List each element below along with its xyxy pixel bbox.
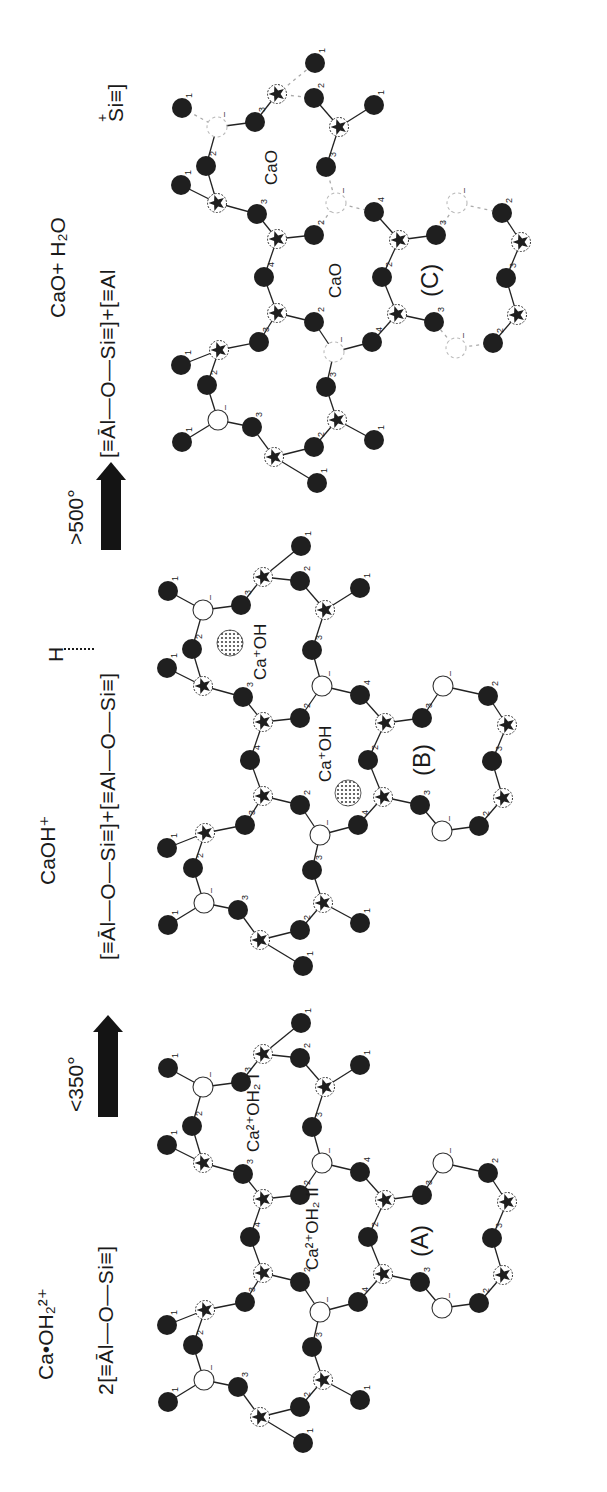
silicon-atom-star-icon	[251, 931, 270, 950]
oxygen-atom: 2	[290, 915, 312, 940]
oxygen-atom: 1	[157, 1130, 179, 1155]
svg-text:2: 2	[316, 307, 326, 312]
svg-text:4: 4	[362, 1157, 372, 1162]
oxygen-atom: 2	[304, 307, 326, 332]
silicon-atom-star-icon	[251, 1408, 270, 1427]
oxygen-atom: 3	[302, 635, 324, 660]
silicon-atom-star-icon	[376, 714, 395, 733]
aluminum-atom: –	[446, 333, 468, 358]
svg-text:3: 3	[314, 855, 324, 860]
temperature-label-b: >500°	[64, 489, 88, 545]
svg-text:2: 2	[370, 745, 380, 750]
silicon-atom-star-icon	[254, 787, 273, 806]
temperature-label-a: <350°	[64, 1056, 88, 1112]
svg-text:3: 3	[240, 1372, 250, 1377]
svg-text:–: –	[336, 337, 346, 342]
silicon-atom-star-icon	[316, 601, 335, 620]
svg-text:4: 4	[376, 197, 386, 202]
svg-text:3: 3	[243, 590, 253, 595]
aluminum-atom: –	[433, 1148, 455, 1173]
oxygen-atom: 1	[350, 1050, 372, 1075]
oxygen-atom: 1	[364, 425, 386, 450]
svg-text:3: 3	[257, 107, 267, 112]
oxygen-atom: 4	[350, 680, 372, 705]
oxygen-atom: 2	[304, 432, 326, 457]
oxygen-atom: 1	[291, 531, 313, 556]
aluminum-atom: –	[310, 1297, 332, 1322]
oxygen-atom: 3	[242, 412, 264, 437]
svg-text:4: 4	[252, 1222, 262, 1227]
oxygen-atom: 2	[290, 1392, 312, 1417]
silicon-atom-star-icon	[376, 1191, 395, 1210]
silicon-atom-star-icon	[210, 341, 229, 360]
svg-text:2: 2	[302, 915, 312, 920]
species-label-a: Ca•OH₂²⁺	[34, 1288, 58, 1380]
svg-text:2: 2	[195, 853, 205, 858]
aluminum-atom: –	[447, 188, 469, 213]
oxygen-atom: 2	[469, 811, 491, 836]
svg-text:1: 1	[303, 1008, 313, 1013]
oxygen-atom: 3	[228, 895, 250, 920]
svg-text:3: 3	[508, 263, 518, 268]
svg-text:–: –	[206, 888, 216, 893]
oxygen-atom: 3	[235, 810, 257, 835]
silicon-atom-star-icon	[254, 1190, 273, 1209]
inner-label-c2: CaO	[326, 263, 346, 298]
silicon-atom-star-icon	[390, 231, 409, 250]
svg-text:3: 3	[314, 635, 324, 640]
svg-text:2: 2	[481, 811, 491, 816]
silicon-atom-star-icon	[328, 411, 347, 430]
oxygen-atom: 4	[240, 745, 262, 770]
oxygen-atom: 1	[350, 908, 372, 933]
svg-text:1: 1	[170, 910, 180, 915]
oxygen-atom: 1	[307, 468, 329, 493]
equation-a: 2[≡Āl—O—Si≡]	[94, 1245, 118, 1395]
panel-label-b: (B)	[408, 744, 436, 776]
svg-text:3: 3	[245, 1159, 255, 1164]
oxygen-atom: 2	[182, 634, 204, 659]
equation-b: [≡Āl—O—Si≡]+[≡Al—O—Si≡]	[96, 673, 120, 960]
oxygen-atom: 1	[158, 1053, 180, 1078]
svg-text:–: –	[445, 1148, 455, 1153]
aluminum-atom: –	[310, 820, 332, 845]
svg-text:–: –	[338, 188, 348, 193]
svg-text:–: –	[322, 820, 332, 825]
oxygen-atom: 2	[197, 370, 219, 395]
inner-label-b1: Ca⁺OH	[250, 624, 271, 680]
oxygen-atom: 3	[245, 107, 267, 132]
silicon-atom-star-icon	[494, 789, 513, 808]
oxygen-atom: 2	[290, 1043, 312, 1068]
svg-text:–: –	[324, 1148, 334, 1153]
oxygen-atom: 2	[290, 790, 312, 815]
aluminum-atom: –	[326, 188, 348, 213]
svg-text:1: 1	[319, 468, 329, 473]
oxygen-atom: 2	[196, 151, 218, 176]
svg-text:3: 3	[247, 810, 257, 815]
svg-text:–: –	[445, 671, 455, 676]
svg-text:3: 3	[494, 746, 504, 751]
svg-text:2: 2	[209, 370, 219, 375]
oxygen-atom: 1	[172, 93, 194, 118]
oxygen-atom: 2	[183, 1330, 205, 1355]
svg-text:2: 2	[208, 151, 218, 156]
oxygen-atom: 3	[302, 1112, 324, 1137]
oxygen-atom: 3	[482, 746, 504, 771]
aluminum-atom: –	[432, 1293, 454, 1318]
oxygen-atom: 2	[372, 262, 394, 287]
oxygen-atom: 1	[364, 90, 386, 115]
svg-text:3: 3	[314, 1112, 324, 1117]
aluminum-atom: –	[432, 816, 454, 841]
silicon-atom-star-icon	[208, 194, 227, 213]
svg-text:2: 2	[495, 328, 505, 333]
oxygen-atom: 1	[157, 653, 179, 678]
oxygen-atom: 3	[410, 790, 432, 815]
silicon-atom-star-icon	[194, 1154, 213, 1173]
oxygen-atom: 3	[412, 1180, 434, 1205]
species-label-c: CaO+ H₂O	[46, 217, 70, 318]
svg-text:3: 3	[328, 152, 338, 157]
svg-text:1: 1	[183, 170, 193, 175]
oxygen-atom: 4	[348, 810, 370, 835]
oxygen-atom: 1	[293, 951, 315, 976]
calcium-hatched-sphere	[217, 630, 243, 656]
svg-text:3: 3	[422, 790, 432, 795]
